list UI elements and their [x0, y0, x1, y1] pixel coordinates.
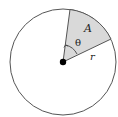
- angle-label: θ: [75, 37, 81, 48]
- center-dot: [60, 59, 66, 65]
- circle-sector-diagram: A θ r: [0, 0, 118, 117]
- area-label: A: [83, 22, 92, 35]
